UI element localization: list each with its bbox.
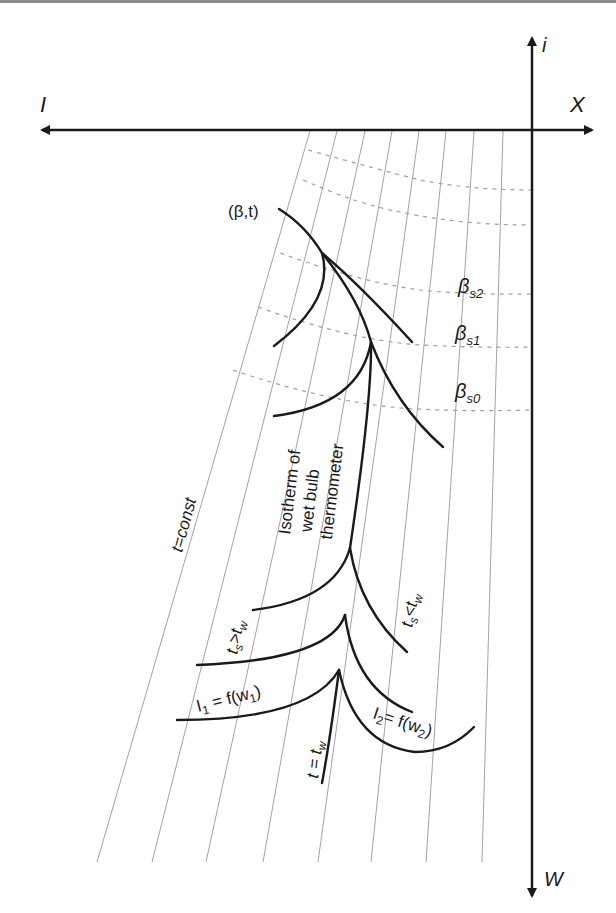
axis-label-I: I [40,92,46,117]
beta-dashed-curves [233,150,532,411]
I2-function-label: I2= f(w2) [370,704,435,744]
ts-less-tw-label: ts<tw [397,590,426,629]
I1-function-label: I1 = f(w1) [194,682,263,719]
ts-greater-tw-label: ts>tw [222,617,251,656]
beta-s0-label: βs0 [454,380,481,406]
axis-label-W: W [544,868,565,890]
isotherm-label: Isotherm of wet bulb thermometer [275,437,347,540]
axis-label-i: i [542,34,547,56]
svg-text:thermometer: thermometer [317,442,348,540]
point-label: (β,t) [228,202,259,221]
diagram-canvas: I X i W (β,t) βs2 βs1 βs0 t=const Isothe… [0,0,616,913]
axis-label-X: X [569,92,586,117]
beta-s1-label: βs1 [454,322,480,348]
beta-s2-label: βs2 [457,275,484,301]
